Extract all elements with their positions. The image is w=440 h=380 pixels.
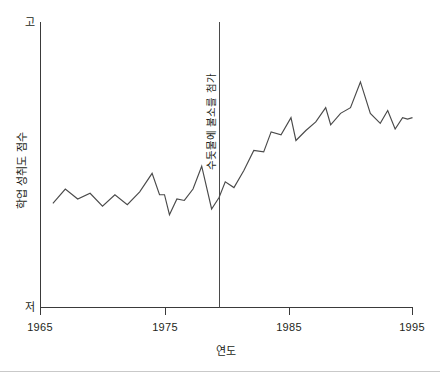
x-axis-ticks bbox=[41, 308, 413, 316]
data-series-line bbox=[53, 82, 413, 215]
axes-group bbox=[41, 22, 414, 308]
chart-canvas: 1965 1975 1985 1995 고 저 학업 성취도 점수 연도 수돗물… bbox=[0, 0, 440, 380]
y-axis-title: 학업 성취도 점수 bbox=[16, 132, 29, 209]
y-axis-label-high: 고 bbox=[25, 16, 35, 29]
x-tick-label-1985: 1985 bbox=[276, 321, 302, 333]
annotation-label-fluoridation: 수돗물에 불소를 첨가 bbox=[205, 73, 217, 170]
x-tick-labels: 1965 1975 1985 1995 bbox=[27, 321, 425, 333]
x-tick-label-1965: 1965 bbox=[27, 321, 53, 333]
chart-figure: 1965 1975 1985 1995 고 저 학업 성취도 점수 연도 수돗물… bbox=[0, 0, 440, 380]
x-tick-label-1995: 1995 bbox=[399, 321, 425, 333]
x-tick-label-1975: 1975 bbox=[152, 321, 178, 333]
y-axis-label-low: 저 bbox=[25, 301, 35, 314]
x-axis-title: 연도 bbox=[216, 345, 236, 358]
